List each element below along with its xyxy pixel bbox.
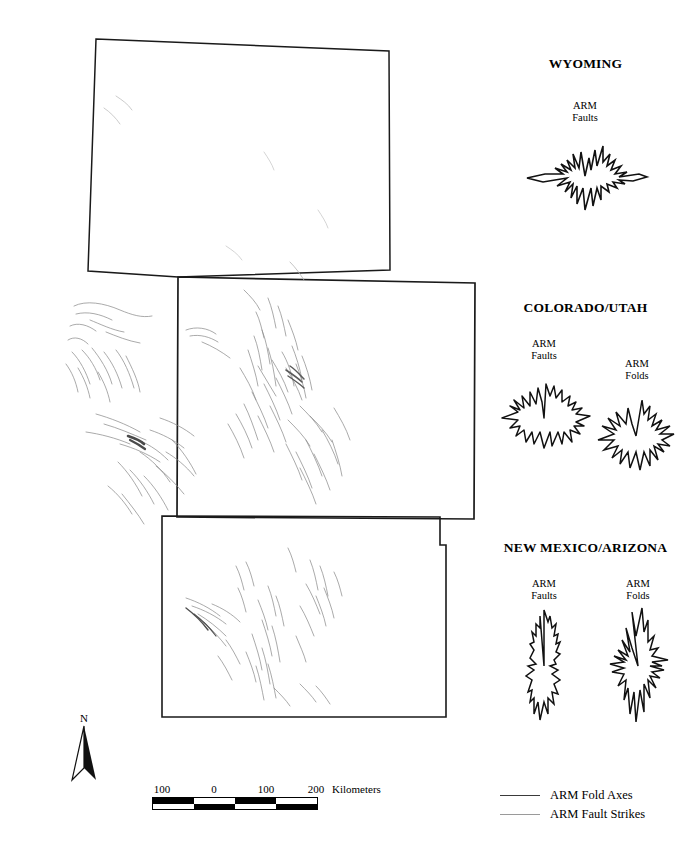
scale-bar: 100 0 100 200 Kilometers [152, 783, 382, 810]
state-outline-newmexico [162, 516, 446, 717]
north-arrow: N [62, 712, 106, 788]
scale-label-3: 200 [308, 783, 325, 795]
panel-wyoming: WYOMING ARM Faults [480, 56, 691, 242]
legend-label-fold-axes: ARM Fold Axes [550, 788, 633, 803]
scale-segment [235, 804, 276, 810]
scale-label-0: 100 [154, 783, 171, 795]
rose-label-line1: ARM [586, 578, 690, 590]
rose-newmexico-faults: ARM Faults [494, 578, 594, 730]
legend-item-fault-strikes: ARM Fault Strikes [500, 805, 645, 824]
scale-bar-labels: 100 0 100 200 Kilometers [152, 783, 382, 797]
arm-structure-traces [66, 96, 350, 706]
rose-label-line1: ARM [488, 338, 600, 350]
rose-colorado-folds: ARM Folds [584, 358, 690, 490]
north-arrow-label: N [62, 712, 106, 724]
scale-segment [194, 804, 235, 810]
figure-root: WYOMING ARM Faults COLORADO/UTAH ARM Fau… [0, 0, 691, 864]
scale-label-1: 0 [211, 783, 217, 795]
rose-newmexico-folds: ARM Folds [586, 578, 690, 730]
rose-label-line1: ARM [510, 100, 660, 112]
legend-line-swatch-fold-axes [500, 795, 540, 796]
scale-segment [153, 804, 194, 810]
scale-unit-label: Kilometers [332, 783, 381, 795]
rose-diagram-wy-faults [515, 124, 655, 229]
north-arrow-icon [69, 724, 99, 784]
legend-label-fault-strikes: ARM Fault Strikes [550, 807, 645, 822]
rose-label-line2: Folds [584, 370, 690, 382]
scale-bar-row-bottom [153, 804, 317, 810]
rose-label-line2: Faults [494, 590, 594, 602]
panel-newmexico-arizona: NEW MEXICO/ARIZONA ARM Faults ARM Folds [480, 540, 691, 731]
scale-bar-graphic [152, 797, 318, 810]
panel-title-newmexico-arizona: NEW MEXICO/ARIZONA [480, 540, 691, 556]
rose-diagram-nm-faults [494, 602, 594, 730]
panel-title-colorado-utah: COLORADO/UTAH [480, 300, 691, 316]
panel-title-wyoming: WYOMING [480, 56, 691, 72]
scale-segment [276, 804, 317, 810]
panel-colorado-utah: COLORADO/UTAH ARM Faults ARM Folds [480, 300, 691, 486]
legend: ARM Fold Axes ARM Fault Strikes [500, 786, 645, 824]
state-outline-colorado [177, 277, 475, 519]
legend-item-fold-axes: ARM Fold Axes [500, 786, 645, 805]
rose-diagram-nm-folds [586, 602, 690, 730]
legend-line-swatch-fault-strikes [500, 814, 540, 815]
state-outline-wyoming [88, 39, 390, 277]
scale-label-2: 100 [258, 783, 275, 795]
rose-label-line2: Faults [510, 112, 660, 124]
rose-label-line1: ARM [494, 578, 594, 590]
rose-label-line2: Folds [586, 590, 690, 602]
rose-diagram-co-folds [584, 382, 690, 490]
rose-label-line1: ARM [584, 358, 690, 370]
rose-wyoming-faults: ARM Faults [510, 100, 660, 229]
